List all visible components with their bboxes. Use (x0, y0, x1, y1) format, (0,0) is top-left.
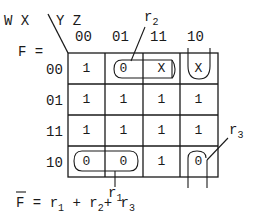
cell-01-00: 1 (68, 84, 105, 115)
cell-11-11: 1 (143, 115, 180, 146)
cell-00-01: 0 (105, 53, 142, 84)
diagonal-divider (48, 14, 68, 53)
equation-term-3: r3 (121, 195, 135, 211)
cell-10-11: 1 (143, 146, 180, 177)
cell-01-01: 1 (105, 84, 142, 115)
cell-01-10: 1 (180, 84, 217, 115)
equation: F = r1 + r2+ r3 (16, 196, 135, 210)
cell-10-01: 0 (105, 146, 142, 177)
cell-11-01: 1 (105, 115, 142, 146)
cell-00-10: X (180, 53, 217, 84)
cell-11-00: 1 (68, 115, 105, 146)
cell-11-10: 1 (180, 115, 217, 146)
cell-01-11: 1 (143, 84, 180, 115)
cell-10-10: 0 (180, 146, 217, 177)
r2-label: r2 (144, 10, 158, 24)
cell-10-00: 0 (68, 146, 105, 177)
r3-label: r3 (229, 123, 243, 137)
equation-lhs: F (16, 195, 24, 211)
equation-term-1: r1 (50, 195, 64, 211)
cell-00-11: X (143, 53, 180, 84)
cell-00-00: 1 (68, 53, 105, 84)
equation-term-2: r2 (89, 195, 103, 211)
